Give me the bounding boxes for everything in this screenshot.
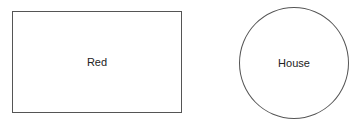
circle-label: House [278, 57, 310, 69]
circle-shape: House [239, 7, 349, 119]
rectangle-label: Red [87, 56, 107, 68]
rectangle-shape: Red [12, 11, 182, 113]
